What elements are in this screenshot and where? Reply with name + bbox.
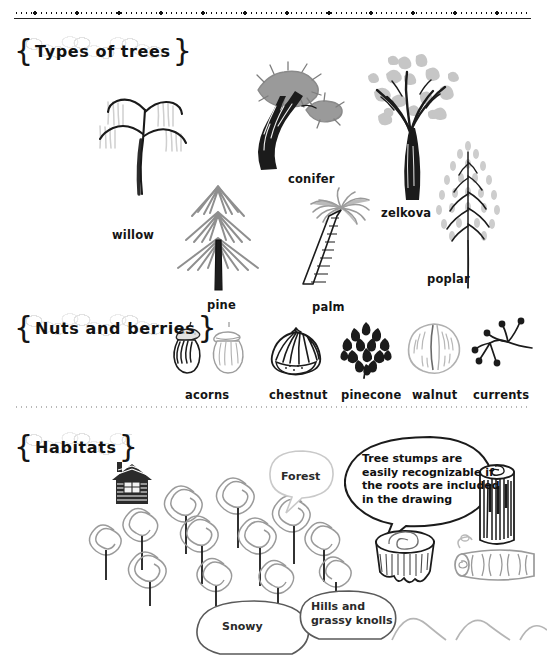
- callout-snowy: Snowy: [194, 598, 314, 659]
- section-divider: [14, 406, 531, 408]
- callout-forest: Forest: [266, 448, 340, 518]
- caption-walnut: walnut: [412, 388, 457, 402]
- illustration-pinecone: [338, 320, 394, 378]
- caption-willow: willow: [112, 228, 154, 242]
- illustration-willow: [92, 82, 202, 194]
- illustration-tree-stump: [366, 528, 444, 588]
- caption-chestnut: chestnut: [269, 388, 328, 402]
- section-title-text: Habitats: [35, 438, 117, 457]
- bracket-left-icon: {: [14, 313, 33, 343]
- bracket-right-icon: }: [173, 36, 192, 66]
- caption-palm: palm: [312, 300, 345, 314]
- caption-acorns: acorns: [185, 388, 229, 402]
- illustration-walnut: [406, 322, 462, 374]
- forest-label: Forest: [281, 470, 320, 484]
- bracket-left-icon: {: [14, 432, 33, 462]
- section-heading-habitats: { Habitats }: [14, 432, 138, 462]
- caption-conifer: conifer: [288, 172, 335, 186]
- border-solid-rule: [14, 18, 531, 19]
- top-decorative-border: [14, 8, 531, 22]
- illustration-currents: [462, 312, 534, 378]
- illustration-chestnut: [268, 326, 324, 376]
- snowy-label: Snowy: [222, 620, 263, 634]
- callout-hills: Hills and grassy knolls: [298, 588, 400, 646]
- illustration-lying-log: [446, 528, 542, 586]
- bracket-right-icon: }: [119, 432, 138, 462]
- section-title-text: Types of trees: [35, 42, 171, 61]
- section-heading-types-of-trees: { Types of trees }: [14, 36, 192, 66]
- caption-poplar: poplar: [427, 272, 470, 286]
- illustration-palm: [297, 186, 377, 296]
- illustration-poplar: [424, 140, 514, 288]
- bracket-right-icon: }: [197, 313, 216, 343]
- caption-pinecone: pinecone: [341, 388, 401, 402]
- illustration-conifer: [240, 62, 355, 177]
- hills-label: Hills and grassy knolls: [311, 600, 393, 627]
- stump-tip-text: Tree stumps are easily recognizable if t…: [362, 452, 502, 506]
- illustration-rolling-hills: [392, 600, 547, 640]
- section-title-text: Nuts and berries: [35, 319, 195, 338]
- bracket-left-icon: {: [14, 36, 33, 66]
- caption-currents: currents: [473, 388, 529, 402]
- border-large-dots: [14, 10, 531, 16]
- illustration-pine: [168, 182, 268, 294]
